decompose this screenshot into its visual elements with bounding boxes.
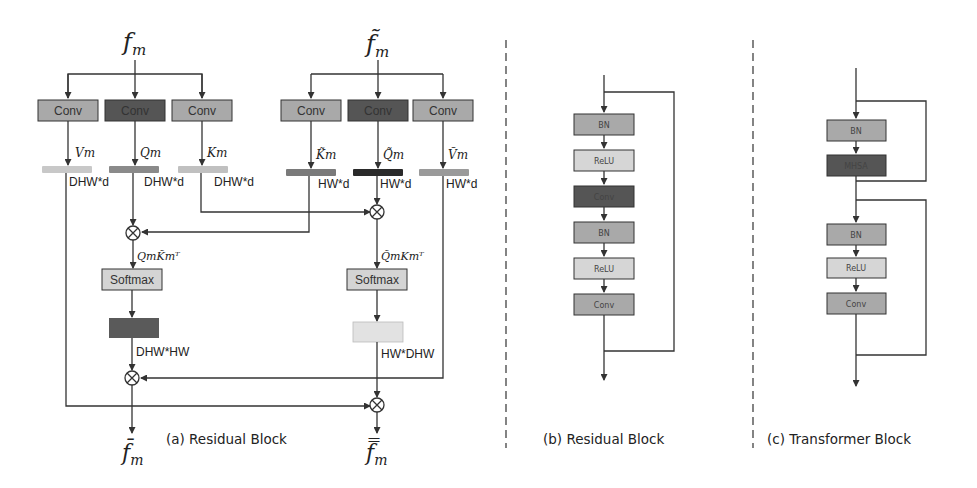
var-vm-tilde: Ṽm [448,147,468,162]
conv-q-right: Conv [348,100,408,121]
attention-map-right [353,322,403,342]
var-km-tilde: K̃m [315,147,336,162]
svg-text:Conv: Conv [594,193,615,202]
conv-v-right: Conv [413,100,473,121]
svg-text:Conv: Conv [188,104,216,118]
caption-c: (c) Transformer Block [767,431,911,447]
output-fm-bar-symbol: f̄m [120,438,143,468]
block-b-relu-2: ReLU [574,258,634,279]
dim-v-left: DHW*d [69,175,109,189]
input-fm-symbol: fm [121,28,146,59]
svg-text:BN: BN [850,231,861,240]
conv-q-left: Conv [105,100,165,121]
caption-b: (b) Residual Block [543,431,664,447]
multiply-icon-left-out [125,371,139,385]
block-b-conv-1: Conv [574,186,634,207]
block-c-conv: Conv [827,293,886,314]
softmax-right: Softmax [347,269,407,290]
attn-dim-left: DHW*HW [136,345,190,359]
attn-dim-right: HW*DHW [381,347,435,361]
dim-k-right: HW*d [318,177,349,191]
softmax-left: Softmax [102,269,162,290]
svg-text:ReLU: ReLU [846,264,866,273]
svg-text:Conv: Conv [594,301,615,310]
svg-text:ReLU: ReLU [594,265,614,274]
dim-q-left: DHW*d [144,175,184,189]
attention-map-left [109,318,159,338]
dim-v-right: HW*d [446,177,477,191]
tensor-v-right [419,169,469,176]
multiply-icon-right-attn [370,205,384,219]
svg-text:MHSA: MHSA [844,162,868,171]
conv-k-right: Conv [281,100,341,121]
input-fm-tilde-symbol: f̃m [364,29,389,61]
var-vm: Vm [75,146,95,160]
var-qm: Qm [140,146,161,160]
block-c-bn-1: BN [827,120,886,141]
svg-text:Conv: Conv [54,104,82,118]
block-b-bn-2: BN [574,222,634,243]
block-b-bn-1: BN [574,114,634,135]
product-left-label: QmK̃mᵀ [137,250,181,263]
block-b-relu-1: ReLU [574,150,634,171]
block-b-conv-2: Conv [574,294,634,315]
dim-q-right: HW*d [380,177,411,191]
tensor-q-left [109,166,159,173]
svg-text:Conv: Conv [846,300,867,309]
tensor-k-left [178,166,228,173]
panel-a-residual-block: fm f̃m Conv Conv Conv Conv [38,28,477,468]
svg-text:ReLU: ReLU [594,157,614,166]
block-c-mhsa: MHSA [827,155,886,176]
multiply-icon-right-out [370,398,384,412]
var-qm-tilde: Q̃m [383,147,404,162]
svg-text:Softmax: Softmax [355,273,399,287]
block-c-bn-2: BN [827,224,886,245]
conv-k-left: Conv [172,100,232,121]
var-km: Km [206,146,227,160]
svg-text:Conv: Conv [297,104,325,118]
tensor-q-right [353,169,403,176]
panel-c-transformer-block: BN MHSA BN ReLU Conv (c) Transformer Blo… [767,68,926,447]
panel-b-residual-block: BN ReLU Conv BN ReLU Conv (b) Residual B… [543,75,674,447]
tensor-v-left [42,166,92,173]
block-c-relu: ReLU [827,258,886,278]
svg-text:Conv: Conv [364,104,392,118]
output-fm-dbar-symbol: f̿m [364,438,387,468]
multiply-icon-left-attn [126,226,140,240]
dim-k-left: DHW*d [214,175,254,189]
svg-text:Softmax: Softmax [110,273,154,287]
architecture-diagram: fm f̃m Conv Conv Conv Conv [0,0,977,488]
svg-text:Conv: Conv [121,104,149,118]
svg-text:BN: BN [598,121,609,130]
svg-text:BN: BN [598,229,609,238]
conv-v-left: Conv [38,100,98,121]
svg-text:Conv: Conv [429,104,457,118]
product-right-label: Q̃mKmᵀ [381,250,425,263]
svg-text:BN: BN [850,127,861,136]
caption-a: (a) Residual Block [166,431,287,447]
tensor-k-right [286,169,336,176]
